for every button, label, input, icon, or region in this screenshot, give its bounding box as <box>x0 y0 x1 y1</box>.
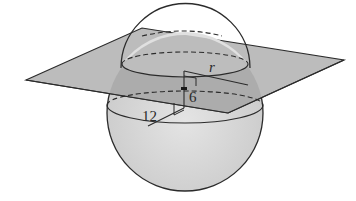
diagram-canvas: r 6 12 <box>0 0 356 201</box>
label-r: r <box>209 59 215 75</box>
label-6: 6 <box>189 89 197 105</box>
label-12: 12 <box>142 108 157 124</box>
sphere-plane-figure: r 6 12 <box>0 0 356 201</box>
